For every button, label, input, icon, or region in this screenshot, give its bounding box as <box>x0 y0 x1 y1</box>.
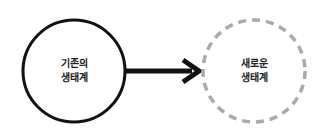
label-line: 기존의 <box>34 57 114 71</box>
label-line: 생태계 <box>214 71 294 85</box>
new-ecosystem-label: 새로운 생태계 <box>214 57 294 85</box>
label-line: 새로운 <box>214 57 294 71</box>
label-line: 생태계 <box>34 71 114 85</box>
existing-ecosystem-label: 기존의 생태계 <box>34 57 114 85</box>
